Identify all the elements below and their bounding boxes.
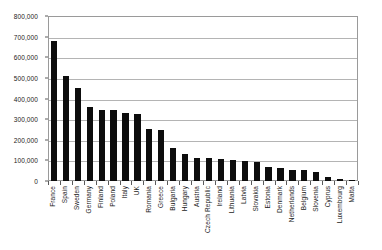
x-axis-tick-mark bbox=[96, 181, 97, 185]
y-axis-tick-label: 600,000 bbox=[14, 54, 38, 61]
y-axis-tick-label: 200,000 bbox=[14, 136, 38, 143]
x-axis-tick-label: Poland bbox=[110, 186, 117, 207]
x-axis-tick-label: Austria bbox=[194, 186, 201, 207]
x-axis-tick-mark bbox=[263, 181, 264, 185]
bar bbox=[242, 161, 248, 181]
x-axis-tick-mark bbox=[203, 181, 204, 185]
bar-chart: 0100,000200,000300,000400,000500,000600,… bbox=[0, 0, 382, 250]
x-axis-tick-mark bbox=[131, 181, 132, 185]
x-axis-tick-mark bbox=[227, 181, 228, 185]
x-axis-tick-label: Czech Republic bbox=[205, 186, 212, 233]
bar bbox=[265, 167, 271, 181]
bar bbox=[158, 130, 164, 181]
x-axis-tick-mark bbox=[239, 181, 240, 185]
x-axis-tick-label: Italy bbox=[122, 186, 129, 198]
x-axis-tick-label: Bulgaria bbox=[170, 186, 177, 211]
bar bbox=[182, 154, 188, 181]
bar bbox=[75, 88, 81, 181]
x-axis-tick-label: France bbox=[50, 186, 57, 207]
x-axis-tick-label: Spain bbox=[62, 186, 69, 203]
bar bbox=[122, 113, 128, 181]
x-axis-tick-label: UK bbox=[134, 186, 141, 195]
x-axis-tick-mark bbox=[334, 181, 335, 185]
x-axis-tick-label: Slovenia bbox=[313, 186, 320, 212]
x-axis-tick-label: Romania bbox=[146, 186, 153, 213]
x-axis-tick-label: Estonia bbox=[265, 186, 272, 208]
bar bbox=[230, 160, 236, 181]
x-axis-tick-label: Denmark bbox=[277, 186, 284, 213]
x-axis-tick-mark bbox=[155, 181, 156, 185]
x-axis-tick-mark bbox=[167, 181, 168, 185]
x-axis-tick-mark bbox=[84, 181, 85, 185]
bar bbox=[289, 170, 295, 181]
bar bbox=[218, 159, 224, 181]
x-axis-tick-mark bbox=[191, 181, 192, 185]
y-axis-tick-label: 500,000 bbox=[14, 74, 38, 81]
x-axis-tick-mark bbox=[298, 181, 299, 185]
y-axis-tick-label: 800,000 bbox=[14, 13, 38, 20]
y-axis-tick-label: 700,000 bbox=[14, 33, 38, 40]
x-axis-tick-label: Lithuania bbox=[229, 186, 236, 213]
y-axis: 0100,000200,000300,000400,000500,000600,… bbox=[0, 0, 44, 197]
bar bbox=[313, 172, 319, 181]
x-axis-tick-mark bbox=[275, 181, 276, 185]
x-axis-tick-mark bbox=[60, 181, 61, 185]
x-axis-tick-label: Cyprus bbox=[325, 186, 332, 207]
bar bbox=[146, 129, 152, 181]
x-axis-tick-label: Finland bbox=[98, 186, 105, 208]
x-axis-tick-label: Germany bbox=[86, 186, 93, 213]
bar bbox=[194, 158, 200, 181]
x-axis-tick-label: Slovakia bbox=[253, 186, 260, 211]
x-axis-tick-label: Latvia bbox=[241, 186, 248, 204]
x-axis-tick-mark bbox=[251, 181, 252, 185]
bar bbox=[206, 158, 212, 181]
x-axis-tick-mark bbox=[179, 181, 180, 185]
x-axis-tick-label: Hungary bbox=[182, 186, 189, 211]
x-axis-tick-mark bbox=[346, 181, 347, 185]
x-axis-tick-mark bbox=[358, 181, 359, 185]
x-axis-tick-label: Ireland bbox=[217, 186, 224, 207]
bar bbox=[254, 162, 260, 181]
x-axis-tick-mark bbox=[120, 181, 121, 185]
x-axis-tick-mark bbox=[215, 181, 216, 185]
x-axis-tick-label: Netherlands bbox=[289, 186, 296, 222]
x-axis-tick-mark bbox=[143, 181, 144, 185]
bar bbox=[51, 41, 57, 181]
x-axis-tick-mark bbox=[108, 181, 109, 185]
x-axis-tick-mark bbox=[310, 181, 311, 185]
y-axis-tick-label: 0 bbox=[34, 178, 38, 185]
bar bbox=[63, 76, 69, 181]
x-axis-tick-label: Belgium bbox=[301, 186, 308, 210]
bar bbox=[87, 107, 93, 181]
bar bbox=[277, 168, 283, 181]
x-axis-tick-label: Greece bbox=[158, 186, 165, 208]
x-axis-tick-label: Sweden bbox=[74, 186, 81, 210]
x-axis-tick-mark bbox=[48, 181, 49, 185]
x-axis-tick-mark bbox=[322, 181, 323, 185]
bars-layer bbox=[48, 16, 358, 181]
x-axis-tick-label: Luxembourg bbox=[337, 186, 344, 223]
y-axis-tick-label: 100,000 bbox=[14, 157, 38, 164]
bar bbox=[134, 114, 140, 181]
bar bbox=[110, 110, 116, 181]
x-axis-ticks bbox=[48, 181, 358, 185]
x-axis-tick-mark bbox=[286, 181, 287, 185]
bar bbox=[170, 148, 176, 181]
x-axis-tick-label: Malta bbox=[349, 186, 356, 202]
x-axis: FranceSpainSwedenGermanyFinlandPolandIta… bbox=[48, 186, 358, 250]
y-axis-tick-label: 400,000 bbox=[14, 95, 38, 102]
y-axis-tick-label: 300,000 bbox=[14, 116, 38, 123]
bar bbox=[301, 170, 307, 181]
bar bbox=[99, 110, 105, 181]
x-axis-tick-mark bbox=[72, 181, 73, 185]
